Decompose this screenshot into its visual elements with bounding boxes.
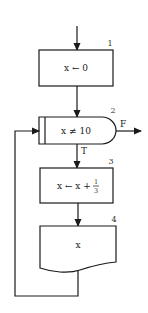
node-number-2: 2 [110,106,115,115]
true-branch-label: T [81,146,87,156]
flowchart-diagram: x ← 0 1 x ≠ 10 2 F T x ← x + 1 3 3 x 4 [0,0,148,313]
process-box-3-label: x ← x + [57,181,91,191]
fraction-denominator: 3 [94,187,98,195]
decision-box-2-label: x ≠ 10 [61,126,91,136]
false-branch-label: F [120,119,126,129]
node-number-3: 3 [108,157,113,166]
document-box-4-label: x [75,240,80,250]
fraction-numerator: 1 [94,178,98,186]
node-number-1: 1 [107,39,112,48]
process-box-1: x ← 0 1 [39,39,113,86]
node-number-4: 4 [111,215,116,224]
process-box-1-label: x ← 0 [64,63,88,73]
